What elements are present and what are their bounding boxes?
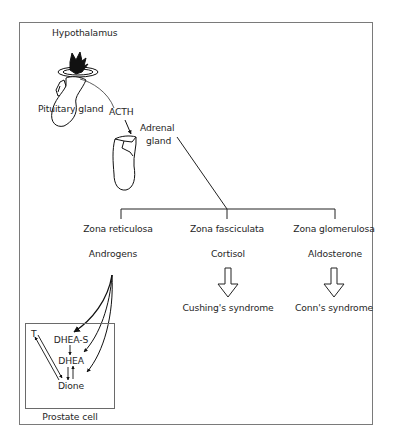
aldosterone-label: Aldosterone <box>308 248 362 259</box>
adrenal-label-line1: Adrenal <box>140 122 175 133</box>
zone-glomerulosa-label: Zona glomerulosa <box>293 223 375 234</box>
adrenal-connector <box>177 137 227 209</box>
hypothalamus-pituitary-icon <box>52 52 98 126</box>
conns-syndrome-label: Conn's syndrome <box>295 302 373 313</box>
dione-label: Dione <box>58 380 84 391</box>
zone-fasciculata-label: Zona fasciculata <box>190 223 264 234</box>
zone-bracket <box>121 209 335 219</box>
androgens-label: Androgens <box>89 248 137 259</box>
dhea-label: DHEA <box>58 355 84 366</box>
cortisol-outcome-arrow <box>218 268 238 297</box>
cushings-syndrome-label: Cushing's syndrome <box>182 302 273 313</box>
acth-arrow <box>125 120 131 134</box>
acth-label: ACTH <box>109 106 134 117</box>
aldosterone-outcome-arrow <box>324 268 344 297</box>
testosterone-label: T <box>31 328 37 339</box>
prostate-cell-label: Prostate cell <box>42 411 97 422</box>
hypothalamus-label: Hypothalamus <box>52 27 117 38</box>
zone-reticulosa-label: Zona reticulosa <box>83 223 153 234</box>
adrenal-label-line2: gland <box>146 135 171 146</box>
cortisol-label: Cortisol <box>211 248 245 259</box>
pituitary-label: Pituitary gland <box>38 103 103 114</box>
dhea-s-label: DHEA-S <box>54 334 88 345</box>
adrenal-gland-icon <box>113 136 136 190</box>
